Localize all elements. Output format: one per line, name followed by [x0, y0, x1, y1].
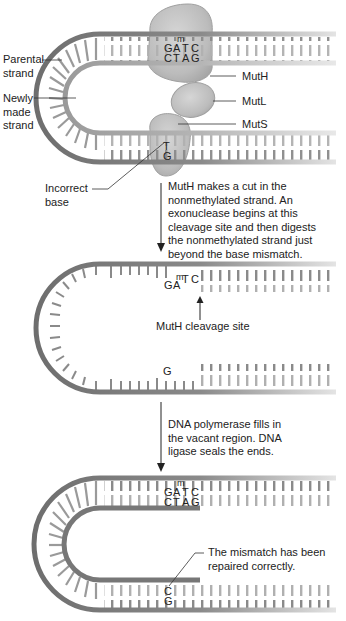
leader-lines: [34, 60, 236, 189]
repaired-label: The mismatch has been repaired correctly…: [208, 546, 325, 573]
newly-made-strand-label: Newly made strand: [3, 92, 34, 133]
panel-3-repaired: m G A T C C T A G C G: [34, 478, 336, 610]
panel-2-excision: m G A T C G MutH cleavage site: [36, 264, 336, 392]
gatc-a: A: [173, 279, 181, 291]
cleavage-site-label: MutH cleavage site: [156, 320, 250, 332]
muts-label: MutS: [242, 118, 268, 130]
gatc-bottom-g: G: [191, 52, 200, 64]
mismatch-bottom-base: G: [163, 150, 172, 162]
cleavage-arrow: [197, 296, 204, 320]
gatc-bottom-t: T: [173, 496, 180, 508]
incorrect-base-label: Incorrect base: [45, 182, 88, 209]
step-2-description: DNA polymerase fills in the vacant regio…: [168, 418, 282, 459]
repaired-new-strand: [64, 508, 200, 580]
curve-base-pairs: [49, 481, 96, 599]
gatc-t: T: [182, 273, 189, 285]
step-2-arrow: [157, 402, 165, 472]
muth-label: MutH: [242, 70, 268, 82]
gatc-c: C: [191, 273, 199, 285]
gatc-bottom-a: A: [182, 496, 190, 508]
gatc-bottom-t: T: [173, 52, 180, 64]
gatc-bottom-c: C: [164, 496, 172, 508]
step-1-arrow: [157, 183, 165, 252]
gatc-bottom-a: A: [182, 52, 190, 64]
step-1-description: MutH makes a cut in the nonmethylated st…: [168, 180, 316, 262]
repaired-bottom-base: G: [164, 595, 173, 607]
panel-1-mismatch-recognition: m G A T C C T A G T G MutH MutL MutS: [34, 4, 336, 189]
gatc-bottom-c: C: [164, 52, 172, 64]
mismatch-repair-diagram: m G A T C C T A G T G MutH MutL MutS: [0, 0, 346, 621]
parental-strand-label: Parental strand: [3, 53, 44, 80]
gatc-bottom-g: G: [191, 496, 200, 508]
gatc-g: G: [164, 279, 173, 291]
mutl-label: MutL: [242, 95, 266, 107]
exposed-g-base: G: [163, 365, 172, 377]
